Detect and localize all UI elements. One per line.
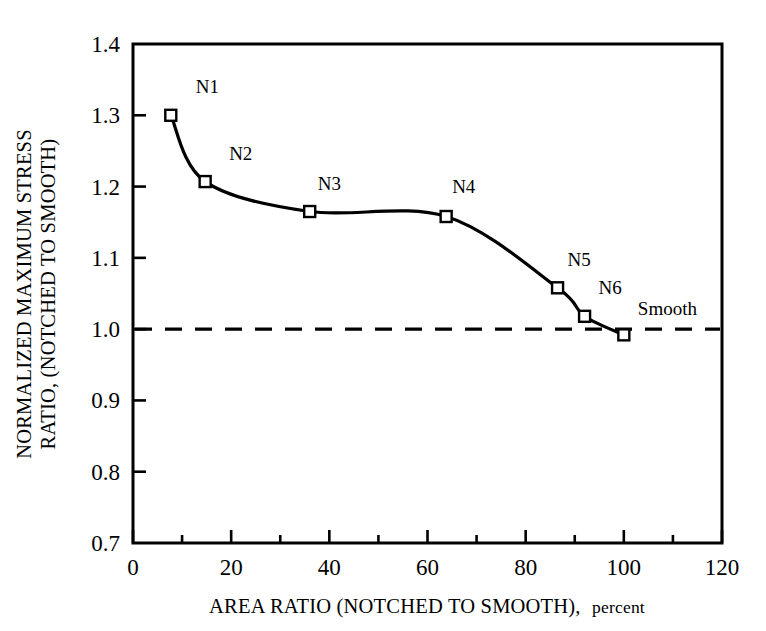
y-tick-label: 1.0 [91,317,120,342]
x-tick-label: 0 [127,555,139,580]
data-point-label: N2 [229,143,252,164]
y-axis-tick-labels: 0.70.80.91.01.11.21.31.4 [91,32,120,556]
stress-ratio-line-chart: 020406080100120 0.70.80.91.01.11.21.31.4… [0,0,766,631]
y-axis-title-line-1: NORMALIZED MAXIMUM STRESS [13,129,35,459]
y-tick-label: 1.3 [91,103,120,128]
y-tick-label: 1.1 [91,246,120,271]
data-point-marker [552,282,563,293]
y-tick-label: 0.7 [91,531,120,556]
x-tick-label: 40 [318,555,341,580]
data-point-marker [200,176,211,187]
x-tick-label: 80 [514,555,537,580]
data-point-marker [165,110,176,121]
data-point-marker [304,206,315,217]
data-point-label: Smooth [638,298,698,319]
data-point-label: N5 [568,249,591,270]
data-point-label: N6 [599,277,622,298]
y-axis-title-line-2: RATIO, (NOTCHED TO SMOOTH) [37,139,60,450]
y-tick-label: 0.8 [91,460,120,485]
data-point-label: N3 [318,173,341,194]
x-axis-major-ticks [133,530,722,543]
data-point-marker [618,329,629,340]
data-point-marker [579,311,590,322]
x-tick-label: 120 [705,555,740,580]
x-tick-label: 60 [416,555,439,580]
y-tick-label: 1.2 [91,175,120,200]
x-tick-label: 100 [607,555,642,580]
data-point-marker [441,211,452,222]
x-tick-label: 20 [220,555,243,580]
x-axis-tick-labels: 020406080100120 [127,555,739,580]
data-point-annotations: N1N2N3N4N5N6Smooth [196,76,698,319]
y-axis-major-ticks [133,115,146,471]
data-point-label: N1 [196,76,219,97]
data-point-label: N4 [452,176,476,197]
y-tick-label: 1.4 [91,32,120,57]
y-tick-label: 0.9 [91,388,120,413]
x-axis-title: AREA RATIO (NOTCHED TO SMOOTH), percent [209,595,645,618]
chart-figure: 020406080100120 0.70.80.91.01.11.21.31.4… [0,0,766,631]
plot-frame [133,44,722,543]
